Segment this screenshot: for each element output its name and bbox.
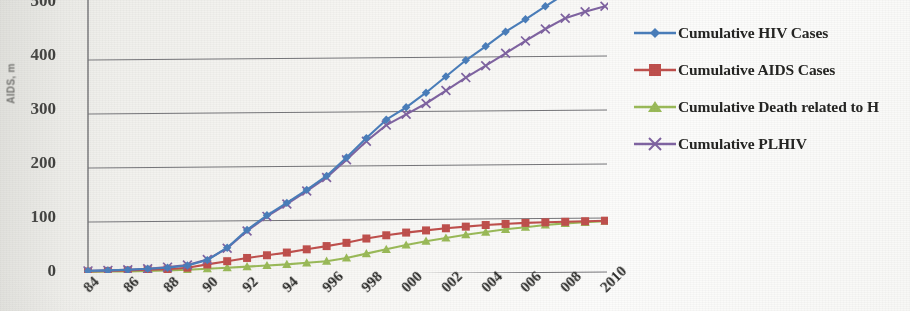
legend-item-cumulative-aids-cases[interactable]: Cumulative AIDS Cases (632, 51, 910, 88)
legend-label: Cumulative HIV Cases (678, 24, 910, 42)
legend-key-diamond-icon (632, 24, 678, 42)
legend-key-square-icon (632, 61, 678, 79)
hiv-aids-cumulative-line-chart: AIDS, m 5004003002001000 848688909294996… (0, 0, 910, 311)
legend-label: Cumulative PLHIV (678, 135, 910, 153)
legend-label-clip: Cumulative HIV Cases (678, 24, 910, 42)
x-axis-tick-2004: 004 (478, 268, 506, 296)
legend-item-cumulative-plhiv[interactable]: Cumulative PLHIV (632, 125, 910, 162)
x-axis-tick-1986: 86 (120, 273, 143, 296)
x-axis-tick-2002: 002 (438, 268, 466, 296)
x-axis-tick-1990: 90 (199, 273, 222, 296)
legend-label-clip: Cumulative AIDS Cases (678, 61, 910, 79)
legend-item-cumulative-hiv-cases[interactable]: Cumulative HIV Cases (632, 14, 910, 51)
x-axis-tick-2000: 000 (398, 268, 426, 296)
legend-label-clip: Cumulative Death related to H (678, 98, 910, 116)
legend-label: Cumulative Death related to H (678, 98, 910, 116)
legend-label: Cumulative AIDS Cases (678, 61, 910, 79)
x-axis-tick-2010: 2010 (597, 263, 630, 296)
x-axis-tick-2006: 006 (517, 268, 545, 296)
x-axis-tick-2008: 008 (557, 268, 585, 296)
x-axis-tick-1988: 88 (160, 273, 183, 296)
x-axis-tick-1994: 94 (279, 273, 302, 296)
x-axis-tick-1992: 92 (239, 273, 262, 296)
x-axis-tick-1984: 84 (80, 273, 103, 296)
legend-item-cumulative-death-related-to-h[interactable]: Cumulative Death related to H (632, 88, 910, 125)
x-axis-tick-1998: 998 (358, 268, 386, 296)
legend-key-x-icon (632, 135, 678, 153)
chart-legend: Cumulative HIV CasesCumulative AIDS Case… (632, 14, 910, 162)
legend-label-clip: Cumulative PLHIV (678, 135, 910, 153)
x-axis-tick-1996: 996 (319, 268, 347, 296)
legend-key-triangle-icon (632, 98, 678, 116)
